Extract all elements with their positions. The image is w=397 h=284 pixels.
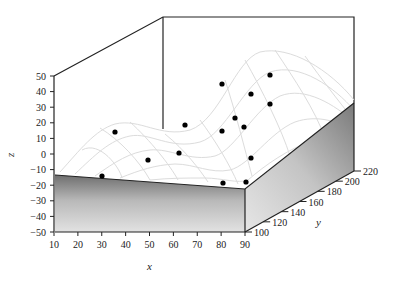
z-tick-label: −10 <box>30 164 46 175</box>
x-tick-label: 90 <box>240 239 250 250</box>
x-tick-label: 20 <box>73 239 83 250</box>
z-tick-label: 0 <box>41 149 46 160</box>
x-tick-label: 50 <box>145 239 155 250</box>
z-axis-label: z <box>4 152 16 158</box>
y-tick-label: 180 <box>327 186 342 197</box>
x-tick-label: 70 <box>192 239 202 250</box>
data-point <box>219 81 224 86</box>
y-tick-label: 220 <box>363 166 378 177</box>
3d-scatter-plot: 50403020100−10−20−30−40−50 1020304050607… <box>0 0 397 284</box>
y-axis-label: y <box>315 216 321 228</box>
data-point <box>243 179 248 184</box>
x-tick-label: 60 <box>168 239 178 250</box>
data-point <box>248 155 253 160</box>
data-point <box>220 180 225 185</box>
y-tick-label: 160 <box>309 197 324 208</box>
data-point <box>176 150 181 155</box>
x-tick-label: 10 <box>49 239 59 250</box>
front-wall <box>55 175 245 232</box>
data-point <box>99 173 104 178</box>
data-point <box>112 129 117 134</box>
y-tick-label: 140 <box>290 207 305 218</box>
data-point <box>267 72 272 77</box>
z-tick-label: 30 <box>36 102 46 113</box>
z-tick-label: −40 <box>30 211 46 222</box>
data-point <box>267 101 272 106</box>
z-tick-label: 40 <box>36 86 46 97</box>
z-tick-label: 10 <box>36 133 46 144</box>
x-tick-label: 80 <box>216 239 226 250</box>
y-tick-label: 200 <box>345 176 360 187</box>
y-tick-label: 120 <box>272 217 287 228</box>
y-tick-label: 100 <box>254 227 269 238</box>
x-axis-label: x <box>146 260 152 272</box>
x-axis: 102030405060708090 <box>49 232 250 250</box>
data-point <box>145 157 150 162</box>
x-tick-label: 30 <box>97 239 107 250</box>
data-point <box>182 122 187 127</box>
x-tick-label: 40 <box>121 239 131 250</box>
data-point <box>232 115 237 120</box>
z-axis: 50403020100−10−20−30−40−50 <box>30 71 54 238</box>
data-points <box>99 72 272 185</box>
z-tick-label: 50 <box>36 71 46 82</box>
data-point <box>248 91 253 96</box>
z-tick-label: −20 <box>30 180 46 191</box>
z-tick-label: 20 <box>36 117 46 128</box>
data-point <box>241 124 246 129</box>
z-tick-label: −30 <box>30 195 46 206</box>
data-point <box>219 128 224 133</box>
z-tick-label: −50 <box>30 227 46 238</box>
